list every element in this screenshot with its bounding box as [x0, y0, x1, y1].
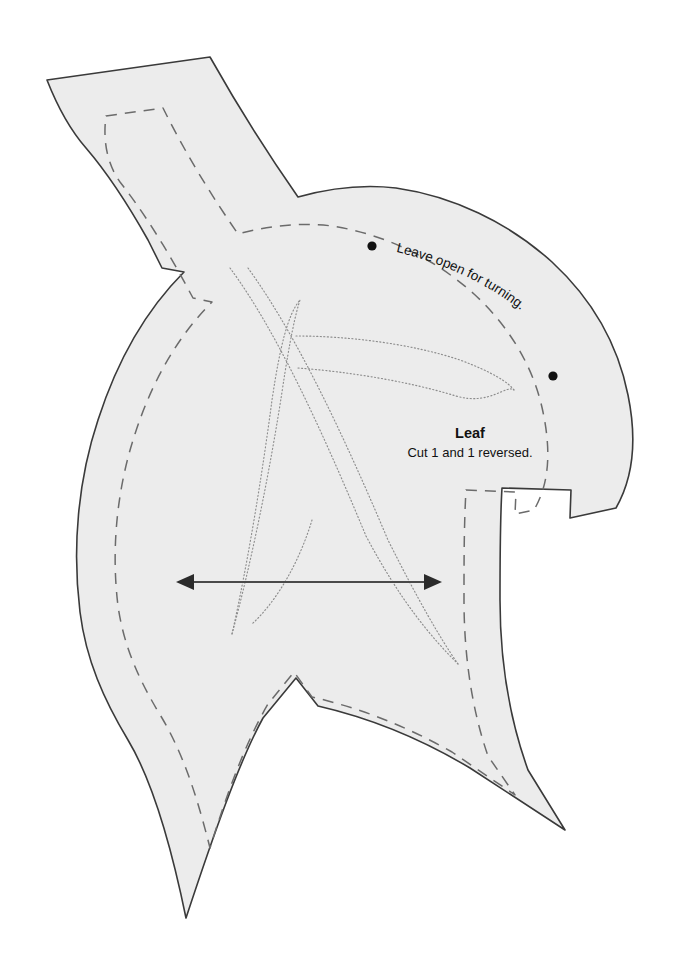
piece-subtitle: Cut 1 and 1 reversed.: [407, 445, 532, 460]
leave-open-dot-end: [548, 371, 557, 380]
pattern-sheet: Leave open for turning. Leaf Cut 1 and 1…: [0, 0, 696, 969]
piece-title: Leaf: [455, 425, 485, 441]
leaf-pattern-drawing: Leave open for turning. Leaf Cut 1 and 1…: [0, 0, 696, 969]
leaf-piece-fill: [47, 57, 633, 918]
leave-open-dot-start: [367, 241, 376, 250]
